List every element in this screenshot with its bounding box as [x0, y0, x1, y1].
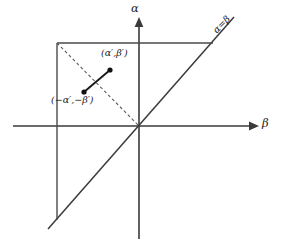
beta-axis-arrowhead	[249, 122, 259, 131]
point-connector-segment	[84, 70, 110, 92]
alpha-axis-label: α	[131, 3, 139, 15]
beta-axis-label: β	[262, 118, 269, 130]
diagram-canvas	[0, 0, 283, 249]
point-marker-primed	[107, 67, 112, 72]
alpha-axis-arrowhead	[135, 17, 144, 27]
alpha-equals-beta-line	[48, 17, 234, 229]
point-label-primed: (α′,β′)	[101, 48, 128, 58]
alpha-beta-coordinate-diagram: α β (α′,β′) (−α′,−β′) α=β	[0, 0, 283, 249]
point-label-negated: (−α′,−β′)	[51, 95, 94, 105]
